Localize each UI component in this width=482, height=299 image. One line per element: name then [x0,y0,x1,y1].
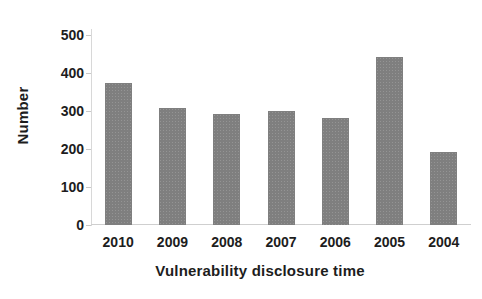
y-axis-tick-mark [86,187,91,188]
bar [376,57,403,225]
bar-group [376,35,403,225]
x-axis-tick-labels: 2010200920082007200620052004 [91,232,471,256]
bar-group [159,35,186,225]
y-axis-tick-mark [86,225,91,226]
y-axis-tick-label: 0 [44,218,84,232]
x-axis-tick-label: 2004 [417,232,471,252]
y-axis-tick-label: 300 [44,104,84,118]
y-axis-tick-mark [86,149,91,150]
y-axis-tick-labels: 0100200300400500 [44,35,84,225]
x-axis-tick-label: 2008 [200,232,254,252]
bar-group [430,35,457,225]
y-axis-tick-label: 400 [44,66,84,80]
x-axis-tick-label: 2010 [91,232,145,252]
y-axis-title-label: Number [15,86,32,144]
x-axis-tick-label: 2006 [308,232,362,252]
bar [430,152,457,225]
y-axis-tick-mark [86,35,91,36]
y-axis-tick-label: 500 [44,28,84,42]
x-axis-title: Vulnerability disclosure time [60,262,460,279]
bar-group [268,35,295,225]
bar-chart-figure: Number 0100200300400500 2010200920082007… [0,0,482,299]
bar [105,83,132,226]
x-axis-tick-label: 2005 [362,232,416,252]
x-axis-tick-label: 2007 [254,232,308,252]
bar-group [322,35,349,225]
x-axis-tick-label: 2009 [145,232,199,252]
bar [159,108,186,225]
bar-series [91,35,471,225]
y-axis-title: Number [0,0,46,230]
bar [268,111,295,225]
y-axis-tick-mark [86,111,91,112]
y-axis-tick-label: 200 [44,142,84,156]
y-axis-tick-mark [86,73,91,74]
bar-group [213,35,240,225]
bar-group [105,35,132,225]
bar [322,118,349,225]
plot-area [91,35,471,225]
bar [213,114,240,225]
y-axis-tick-label: 100 [44,180,84,194]
